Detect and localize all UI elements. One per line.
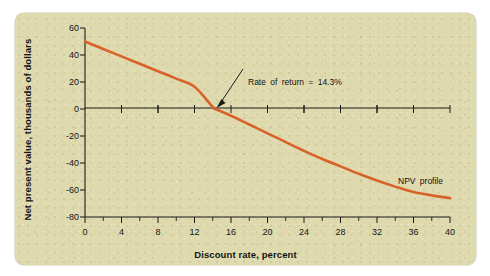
y-tick-label: -60 [35, 185, 79, 195]
x-tick-label: 40 [445, 227, 455, 237]
x-tick-label: 24 [299, 227, 309, 237]
y-tick-label: 60 [35, 23, 79, 33]
figure-panel: Net present value, thousands of dollars … [15, 13, 476, 265]
x-tick-label: 8 [155, 227, 160, 237]
x-tick-label: 0 [82, 227, 87, 237]
x-tick-label: 20 [262, 227, 272, 237]
y-tick-label: -80 [35, 212, 79, 222]
y-axis-title: Net present value, thousands of dollars [22, 51, 33, 221]
y-tick-label: 20 [35, 77, 79, 87]
y-tick-label: 0 [35, 104, 79, 114]
x-tick-label: 4 [119, 227, 124, 237]
x-tick-label: 12 [189, 227, 199, 237]
x-tick-label: 36 [408, 227, 418, 237]
rate-of-return-arrow [216, 69, 243, 108]
y-tick-marks [80, 28, 85, 217]
x-axis-title: Discount rate, percent [15, 249, 476, 260]
annotation-npv-profile: NPV profile [398, 176, 443, 186]
y-tick-label: -20 [35, 131, 79, 141]
x-tick-label: 16 [226, 227, 236, 237]
x-tick-label: 32 [372, 227, 382, 237]
y-tick-label: 40 [35, 50, 79, 60]
npv-profile-curve [85, 42, 450, 199]
plot-area: Net present value, thousands of dollars … [15, 13, 476, 265]
y-tick-label: -40 [35, 158, 79, 168]
x-tick-label: 28 [335, 227, 345, 237]
x-tick-marks-zero-axis [122, 105, 451, 113]
annotation-rate-of-return: Rate of return = 14.3% [248, 77, 342, 87]
